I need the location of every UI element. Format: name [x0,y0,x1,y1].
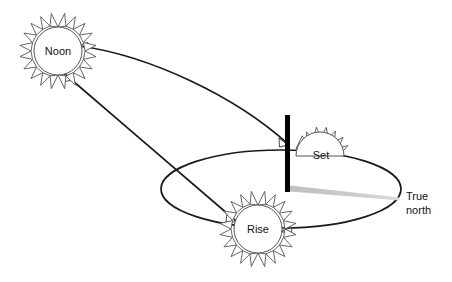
true-north-label: True north [406,190,431,216]
sun-noon-label: Noon [45,45,71,57]
sun-set: Set [296,127,348,161]
diagram-canvas: Set [0,0,452,282]
gnomon-shadow [290,186,400,201]
path-noon-to-set [79,43,289,148]
true-north-line-2: north [406,204,431,216]
true-north-line-1: True [406,190,428,202]
gnomon-pole [285,115,290,192]
sun-rise: Rise [220,191,296,266]
sun-path-diagram: Set [0,0,452,282]
sun-noon: Noon [20,13,96,88]
sun-rise-label: Rise [247,223,269,235]
path-noon-to-rise [62,74,237,223]
sun-set-label: Set [313,149,330,161]
